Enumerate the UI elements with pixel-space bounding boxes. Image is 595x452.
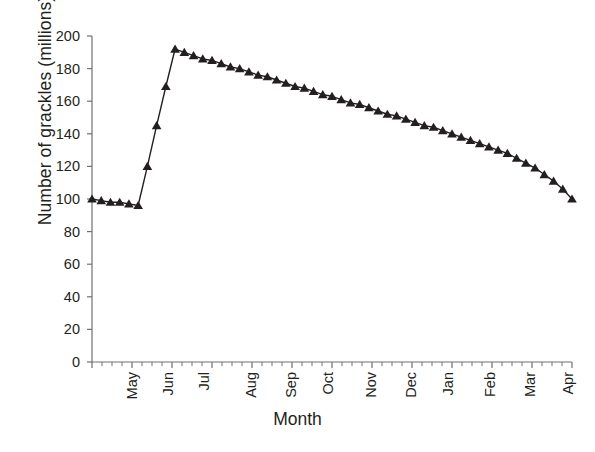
y-tick-label: 60 bbox=[38, 257, 80, 272]
data-point-marker bbox=[539, 170, 549, 178]
y-tick-label: 80 bbox=[38, 225, 80, 240]
axis-lines bbox=[92, 36, 572, 362]
data-point-marker bbox=[521, 159, 531, 167]
y-tick-label: 100 bbox=[38, 192, 80, 207]
x-axis-title: Month bbox=[0, 409, 595, 430]
x-tick-label: Jun bbox=[161, 372, 176, 395]
data-point-marker bbox=[152, 121, 162, 129]
y-tick-label: 20 bbox=[38, 322, 80, 337]
y-tick-label: 40 bbox=[38, 290, 80, 305]
y-tick-label: 180 bbox=[38, 62, 80, 77]
y-tick-label: 120 bbox=[38, 159, 80, 174]
y-tick-label: 0 bbox=[38, 355, 80, 370]
x-tick-label: Apr bbox=[561, 372, 576, 395]
data-point-marker bbox=[143, 162, 153, 170]
x-tick-label: May bbox=[125, 372, 140, 399]
data-point-marker bbox=[530, 163, 540, 171]
x-tick-label: Mar bbox=[523, 372, 538, 397]
data-point-marker bbox=[170, 44, 180, 52]
data-point-marker bbox=[512, 154, 522, 162]
data-point-marker bbox=[549, 176, 559, 184]
x-tick-label: Aug bbox=[244, 372, 259, 398]
y-tick-label: 200 bbox=[38, 29, 80, 44]
x-axis-ticks bbox=[92, 362, 572, 368]
data-point-marker bbox=[161, 82, 171, 90]
x-tick-label: Oct bbox=[321, 372, 336, 395]
x-tick-label: Jul bbox=[197, 372, 212, 391]
x-tick-label: Nov bbox=[364, 372, 379, 398]
x-tick-label: Dec bbox=[404, 372, 419, 398]
x-tick-label: Feb bbox=[483, 372, 498, 397]
y-tick-label: 140 bbox=[38, 127, 80, 142]
data-series-grackles bbox=[87, 44, 577, 209]
x-tick-label: Jan bbox=[441, 372, 456, 395]
x-tick-label: Sep bbox=[284, 372, 299, 398]
grackle-population-chart: Number of grackles (millions) Month 0204… bbox=[0, 0, 595, 452]
y-tick-label: 160 bbox=[38, 94, 80, 109]
